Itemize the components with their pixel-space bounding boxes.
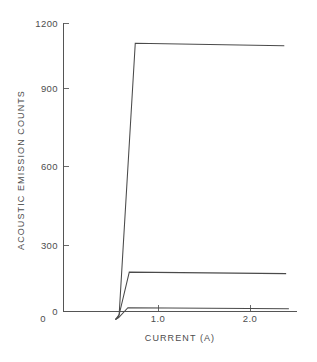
x-tick-label-1: 1.0 bbox=[151, 313, 165, 324]
y-tick-label-900: 900 bbox=[41, 83, 58, 94]
y-tick-label-1200: 1200 bbox=[35, 18, 58, 29]
y-tick-label-0: 0 bbox=[52, 306, 58, 317]
y-axis-title: ACOUSTIC EMISSION COUNTS bbox=[16, 90, 26, 250]
chart-figure: 1200 900 600 300 0 0 1.0 2.0 CURRENT (A)… bbox=[0, 0, 317, 362]
acoustic-emission-line-chart: 1200 900 600 300 0 0 1.0 2.0 CURRENT (A)… bbox=[0, 0, 317, 362]
series-line-upper bbox=[115, 43, 284, 319]
x-tick-label-0: 0 bbox=[40, 313, 46, 324]
y-tick-label-300: 300 bbox=[41, 240, 58, 251]
axis-spines bbox=[64, 23, 298, 312]
series-line-lower bbox=[115, 308, 288, 320]
y-tick-label-600: 600 bbox=[41, 161, 58, 172]
x-axis-title: CURRENT (A) bbox=[145, 333, 215, 343]
series-line-middle bbox=[115, 272, 286, 319]
x-tick-label-2: 2.0 bbox=[243, 313, 257, 324]
